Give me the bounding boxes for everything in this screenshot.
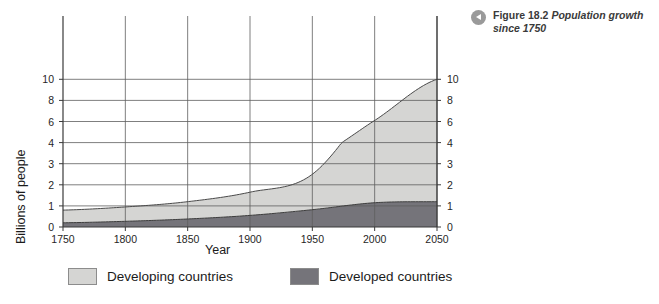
- chart-figure: 012346810 012346810 17501800185019001950…: [0, 0, 480, 304]
- x-tick-1850: 1850: [168, 234, 208, 245]
- y-tick-left-3: 3: [36, 159, 54, 170]
- triangle-left-circle-icon: [471, 10, 486, 25]
- y-tick-right-10: 10: [447, 74, 459, 85]
- y-tick-left-8: 8: [36, 95, 54, 106]
- x-tick-1750: 1750: [43, 234, 83, 245]
- y-tick-left-4: 4: [36, 138, 54, 149]
- y-tick-left-0: 0: [36, 222, 54, 233]
- plot-area: [63, 16, 437, 227]
- legend-item-developed: Developed countries: [290, 268, 452, 285]
- x-tick-1800: 1800: [105, 234, 145, 245]
- y-tick-right-2: 2: [447, 180, 453, 191]
- x-tick-1900: 1900: [230, 234, 270, 245]
- y-tick-right-4: 4: [447, 138, 453, 149]
- y-axis-title: Billions of people: [14, 104, 28, 244]
- chart-legend: Developing countries Developed countries: [68, 268, 452, 285]
- x-tick-1950: 1950: [292, 234, 332, 245]
- y-tick-left-1: 1: [36, 201, 54, 212]
- legend-swatch-developing: [68, 268, 97, 285]
- x-tick-2000: 2000: [355, 234, 395, 245]
- x-axis-title: Year: [205, 243, 230, 257]
- y-tick-left-2: 2: [36, 180, 54, 191]
- y-tick-right-3: 3: [447, 159, 453, 170]
- y-tick-left-6: 6: [36, 117, 54, 128]
- figure-caption-text: Figure 18.2 Population growth since 1750: [493, 9, 656, 35]
- population-area-chart: [63, 16, 437, 227]
- y-tick-left-10: 10: [36, 74, 54, 85]
- y-tick-right-8: 8: [447, 95, 453, 106]
- legend-label-developed: Developed countries: [329, 269, 452, 284]
- legend-swatch-developed: [290, 268, 319, 285]
- legend-label-developing: Developing countries: [107, 269, 233, 284]
- y-tick-right-6: 6: [447, 117, 453, 128]
- y-tick-right-1: 1: [447, 201, 453, 212]
- legend-item-developing: Developing countries: [68, 268, 233, 285]
- figure-number: Figure 18.2: [493, 9, 548, 21]
- y-tick-right-0: 0: [447, 222, 453, 233]
- figure-caption: Figure 18.2 Population growth since 1750: [471, 9, 656, 35]
- x-tick-2050: 2050: [417, 234, 457, 245]
